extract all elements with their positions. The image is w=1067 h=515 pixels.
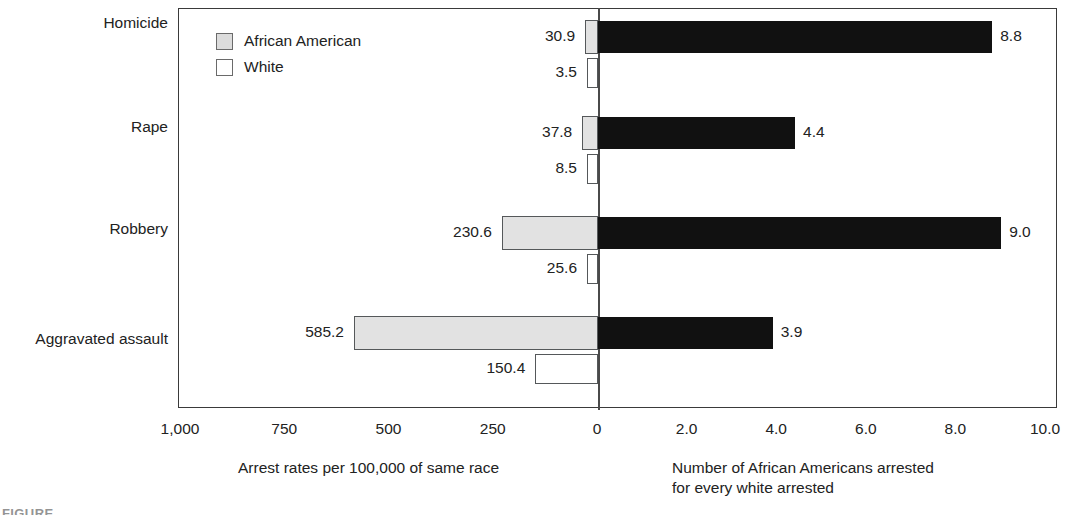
value-label-white-rape: 8.5 — [0, 160, 577, 176]
african-american-bar-homicide[interactable] — [585, 20, 598, 54]
figure-caption-partial: FIGURE — [2, 506, 54, 515]
value-label-african-american-aggravated-assault: 585.2 — [0, 324, 344, 340]
left-axis-tick-500: 500 — [376, 420, 402, 438]
right-axis-tick-10: 10.0 — [1030, 420, 1060, 438]
right-axis-tick-4: 4.0 — [765, 420, 787, 438]
right-axis-title: Number of African Americans arrested for… — [672, 458, 934, 498]
ratio-bar-rape[interactable] — [598, 117, 795, 149]
value-label-african-american-rape: 37.8 — [0, 124, 572, 140]
chart-figure: Homicide Rape Robbery Aggravated assault… — [0, 0, 1067, 515]
african-american-bar-rape[interactable] — [582, 116, 598, 150]
ratio-bar-robbery[interactable] — [598, 217, 1001, 249]
right-axis-tick-2: 2.0 — [676, 420, 698, 438]
white-bar-rape[interactable] — [587, 154, 598, 184]
white-bar-homicide[interactable] — [587, 58, 598, 88]
white-bar-robbery[interactable] — [587, 254, 598, 284]
bar-row-robbery — [179, 205, 1058, 301]
value-label-african-american-robbery: 230.6 — [0, 224, 492, 240]
value-label-white-aggravated-assault: 150.4 — [0, 360, 525, 376]
axis-tick-zero: 0 — [593, 420, 602, 438]
value-label-african-american-homicide: 30.9 — [0, 28, 575, 44]
bar-row-aggravated-assault — [179, 305, 1058, 401]
ratio-bar-homicide[interactable] — [598, 21, 992, 53]
african-american-bar-aggravated-assault[interactable] — [354, 316, 598, 350]
value-label-ratio-homicide: 8.8 — [1000, 28, 1022, 44]
left-axis-tick-750: 750 — [271, 420, 297, 438]
white-bar-aggravated-assault[interactable] — [535, 354, 598, 384]
left-axis-tick-1000: 1,000 — [161, 420, 200, 438]
left-axis-tick-250: 250 — [480, 420, 506, 438]
value-label-white-homicide: 3.5 — [0, 64, 577, 80]
african-american-bar-robbery[interactable] — [502, 216, 598, 250]
value-label-white-robbery: 25.6 — [0, 260, 577, 276]
left-axis-title: Arrest rates per 100,000 of same race — [238, 458, 499, 478]
bar-row-homicide — [179, 9, 1058, 105]
ratio-bar-aggravated-assault[interactable] — [598, 317, 773, 349]
value-label-ratio-robbery: 9.0 — [1009, 224, 1031, 240]
value-label-ratio-aggravated-assault: 3.9 — [781, 324, 803, 340]
right-axis-tick-6: 6.0 — [855, 420, 877, 438]
value-label-ratio-rape: 4.4 — [803, 124, 825, 140]
right-axis-tick-8: 8.0 — [945, 420, 967, 438]
bar-row-rape — [179, 105, 1058, 201]
